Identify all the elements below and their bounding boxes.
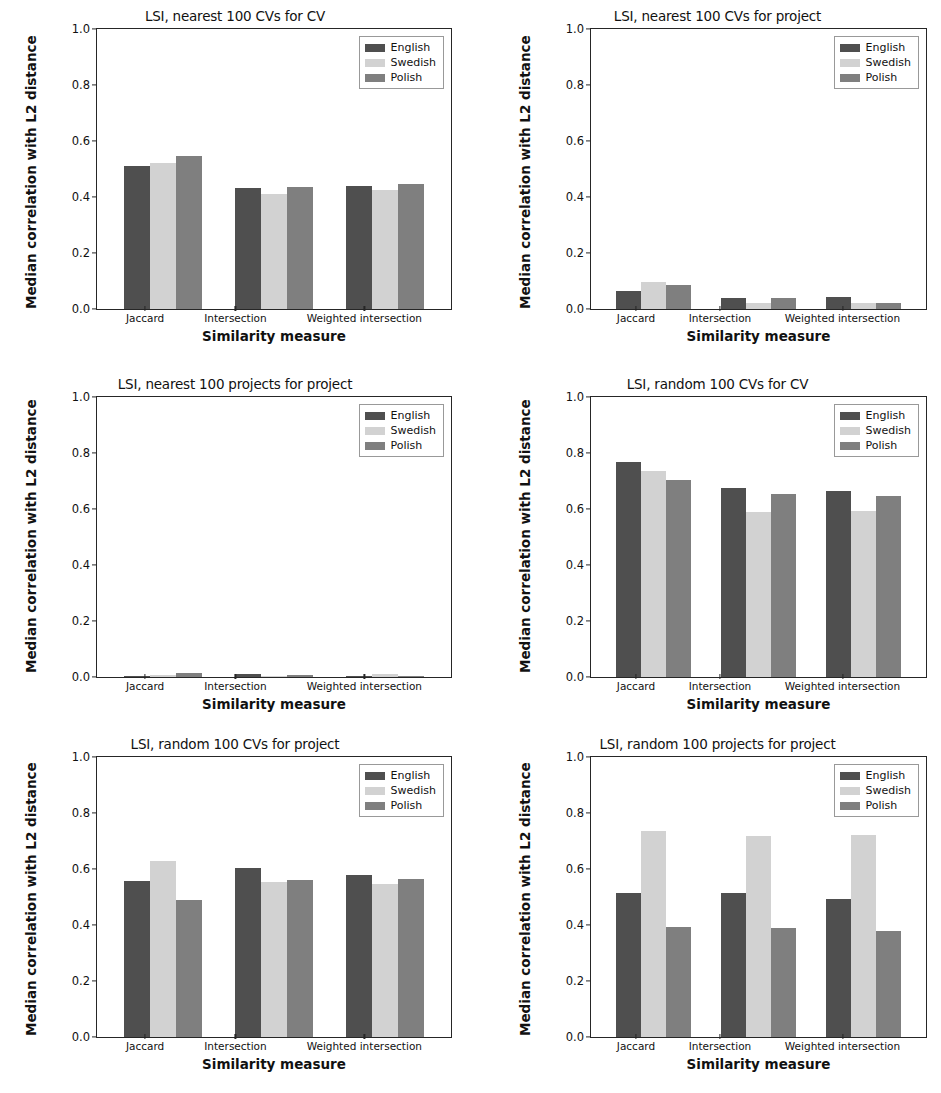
legend-item: Polish: [365, 799, 437, 812]
bar-swedish: [641, 282, 666, 309]
y-tick-label: 1.0: [72, 390, 97, 404]
legend-swatch-icon: [840, 44, 860, 52]
bar-english: [235, 868, 261, 1037]
x-axis-label: Similarity measure: [590, 696, 927, 712]
bar-english: [346, 186, 372, 309]
x-tick-label: Jaccard: [126, 312, 164, 328]
legend-label: Polish: [866, 799, 898, 812]
legend-swatch-icon: [365, 74, 385, 82]
bar-english: [616, 893, 641, 1037]
bar-swedish: [641, 471, 666, 677]
legend-swatch-icon: [840, 412, 860, 420]
y-axis-label: Median correlation with L2 distance: [23, 786, 39, 1036]
y-tick-label: 0.8: [72, 806, 97, 820]
y-tick-label: 1.0: [566, 750, 591, 764]
y-tick-label: 0.6: [72, 862, 97, 876]
bar-group: [616, 29, 691, 309]
bar-english: [235, 188, 261, 309]
legend-swatch-icon: [840, 802, 860, 810]
y-tick-label: 0.0: [566, 302, 591, 316]
legend-item: English: [840, 769, 912, 782]
plot-area: 0.00.20.40.60.81.0EnglishSwedishPolish: [96, 756, 452, 1038]
plot-area: 0.00.20.40.60.81.0EnglishSwedishPolish: [590, 28, 927, 310]
legend-label: English: [391, 41, 431, 54]
x-tick-label: Jaccard: [617, 1040, 655, 1056]
figure-grid: LSI, nearest 100 CVs for CVMedian correl…: [0, 0, 941, 1093]
legend-item: Swedish: [365, 56, 437, 69]
legend-item: Swedish: [365, 784, 437, 797]
x-tick-label: Jaccard: [126, 1040, 164, 1056]
x-tick-label: Intersection: [204, 680, 266, 696]
x-tick-label: Intersection: [689, 1040, 751, 1056]
bar-group: [124, 397, 202, 677]
bar-group: [616, 397, 691, 677]
y-tick-label: 0.2: [72, 614, 97, 628]
bar-group: [235, 397, 313, 677]
bar-polish: [287, 187, 313, 309]
legend-item: English: [840, 409, 912, 422]
legend-label: Swedish: [391, 424, 437, 437]
legend-swatch-icon: [840, 59, 860, 67]
bar-english: [124, 676, 150, 677]
legend-item: Swedish: [840, 56, 912, 69]
x-tick-labels: JaccardIntersectionWeighted intersection: [96, 312, 452, 328]
bar-english: [616, 462, 641, 677]
legend-swatch-icon: [840, 74, 860, 82]
legend: EnglishSwedishPolish: [834, 764, 920, 817]
y-tick-label: 1.0: [72, 750, 97, 764]
chart-panel: LSI, nearest 100 projects for projectMed…: [0, 368, 470, 728]
x-tick-label: Weighted intersection: [785, 312, 900, 328]
x-tick-label: Intersection: [689, 680, 751, 696]
bar-group: [721, 757, 796, 1037]
bar-polish: [771, 298, 796, 309]
legend-swatch-icon: [365, 427, 385, 435]
legend-label: Polish: [391, 799, 423, 812]
x-axis-label: Similarity measure: [590, 328, 927, 344]
bar-group: [235, 29, 313, 309]
x-tick-label: Jaccard: [617, 312, 655, 328]
legend-swatch-icon: [365, 802, 385, 810]
x-tick-labels: JaccardIntersectionWeighted intersection: [96, 680, 452, 696]
legend-label: Polish: [391, 71, 423, 84]
bar-group: [616, 757, 691, 1037]
y-axis-label: Median correlation with L2 distance: [517, 423, 533, 673]
x-tick-label: Intersection: [204, 312, 266, 328]
legend: EnglishSwedishPolish: [359, 404, 445, 457]
bar-swedish: [372, 674, 398, 677]
bar-polish: [398, 184, 424, 309]
y-tick-label: 0.8: [566, 446, 591, 460]
x-axis-label: Similarity measure: [96, 696, 452, 712]
legend-label: Swedish: [866, 784, 912, 797]
legend-label: English: [866, 409, 906, 422]
chart-panel: LSI, nearest 100 CVs for projectMedian c…: [470, 0, 941, 368]
bar-group: [721, 397, 796, 677]
y-tick-label: 0.0: [566, 670, 591, 684]
legend-swatch-icon: [365, 412, 385, 420]
bar-polish: [666, 285, 691, 309]
legend-item: English: [365, 769, 437, 782]
legend-label: Swedish: [866, 56, 912, 69]
y-tick-label: 0.6: [72, 502, 97, 516]
legend-item: English: [840, 41, 912, 54]
x-axis-label: Similarity measure: [590, 1056, 927, 1072]
chart-title: LSI, random 100 projects for project: [494, 736, 941, 752]
y-tick-label: 0.6: [566, 862, 591, 876]
legend-label: English: [866, 41, 906, 54]
legend-swatch-icon: [365, 44, 385, 52]
x-tick-label: Weighted intersection: [307, 680, 422, 696]
bar-english: [721, 893, 746, 1037]
y-tick-label: 0.8: [566, 78, 591, 92]
y-tick-label: 0.4: [566, 558, 591, 572]
y-tick-label: 0.2: [72, 974, 97, 988]
plot-area: 0.00.20.40.60.81.0EnglishSwedishPolish: [590, 396, 927, 678]
bar-polish: [876, 303, 901, 309]
y-tick-label: 0.0: [72, 302, 97, 316]
bar-english: [826, 297, 851, 309]
y-tick-label: 0.2: [72, 246, 97, 260]
legend-label: Swedish: [866, 424, 912, 437]
plot-area: 0.00.20.40.60.81.0EnglishSwedishPolish: [96, 28, 452, 310]
legend-swatch-icon: [365, 787, 385, 795]
bar-polish: [876, 496, 901, 677]
chart-panel: LSI, nearest 100 CVs for CVMedian correl…: [0, 0, 470, 368]
legend-label: Polish: [391, 439, 423, 452]
